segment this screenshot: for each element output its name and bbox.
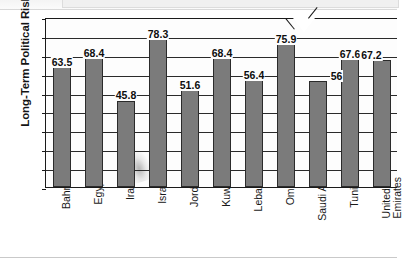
bar-slot <box>373 19 390 187</box>
bar-slot <box>85 19 102 187</box>
bar-value-label: 45.8 <box>115 89 137 101</box>
bar-value-label: 68.4 <box>83 47 105 59</box>
bar-slot <box>149 19 166 187</box>
bar-slot <box>245 19 262 187</box>
bar-slot <box>213 19 230 187</box>
x-label-slot: Iran <box>109 189 141 264</box>
bar-value-label: 78.3 <box>147 28 169 40</box>
bar[interactable] <box>53 67 70 187</box>
scan-fold-notch-icon <box>293 18 315 32</box>
x-label-slot: Saudi Arabia <box>301 189 333 264</box>
x-label-slot: Egypt <box>77 189 109 264</box>
x-label-slot: Kuwait <box>205 189 237 264</box>
scan-top-edge-inner <box>62 0 399 8</box>
bar-slot <box>181 19 198 187</box>
bar[interactable] <box>213 58 230 187</box>
bar-slot <box>117 19 134 187</box>
bar[interactable] <box>341 59 358 187</box>
bar-value-label: 68.4 <box>211 47 233 59</box>
bar-slot <box>341 19 358 187</box>
bar[interactable] <box>245 80 262 187</box>
bar[interactable] <box>277 44 294 187</box>
bar-value-label: 67.2 <box>360 49 382 61</box>
bar[interactable] <box>373 60 390 187</box>
chart-plot-area: 63.568.445.878.351.668.456.475.95667.667… <box>45 18 397 188</box>
x-label-slot: Lebanon <box>237 189 269 264</box>
bar-slot <box>53 19 70 187</box>
bar-slot <box>309 19 326 187</box>
bar[interactable] <box>117 101 134 188</box>
bar-value-label: 56.4 <box>243 69 265 81</box>
bar[interactable] <box>309 81 326 187</box>
bar[interactable] <box>181 90 198 187</box>
x-label-slot: United ArabEmirates <box>365 189 397 264</box>
bar-value-label: 75.9 <box>275 33 297 45</box>
x-label-slot: Oman <box>269 189 301 264</box>
y-axis-title: Long-Term Political Risk <box>19 0 31 146</box>
bar-value-label: 67.6 <box>339 48 361 60</box>
x-label-slot: Tunisia <box>333 189 365 264</box>
x-label-slot: Jordan <box>173 189 205 264</box>
x-label-slot: Israel <box>141 189 173 264</box>
bar-value-label: 63.5 <box>51 56 73 68</box>
bar-series: 63.568.445.878.351.668.456.475.95667.667… <box>46 19 397 187</box>
bar-value-label: 56 <box>330 70 344 82</box>
bar[interactable] <box>85 58 102 187</box>
x-axis-category-labels: BahrainEgyptIranIsraelJordanKuwaitLebano… <box>45 189 397 264</box>
bar[interactable] <box>149 39 166 187</box>
scan-top-edge-band <box>0 0 397 10</box>
x-label-slot: Bahrain <box>45 189 77 264</box>
bar-value-label: 51.6 <box>179 79 201 91</box>
